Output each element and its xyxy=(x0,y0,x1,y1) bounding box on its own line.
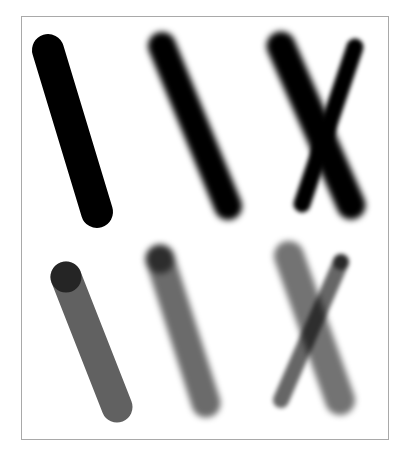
strokes-layer xyxy=(48,46,355,407)
stroke-row-transparent xyxy=(51,245,350,408)
stroke-row-opaque xyxy=(48,46,355,212)
brush-stroke-opaque-hard xyxy=(48,50,97,212)
brush-stroke-transparent-hard xyxy=(51,262,118,408)
brush-stroke-opaque-soft xyxy=(162,46,228,206)
brush-stroke-illustration xyxy=(0,0,411,463)
brush-stroke-transparent-soft xyxy=(146,245,207,404)
